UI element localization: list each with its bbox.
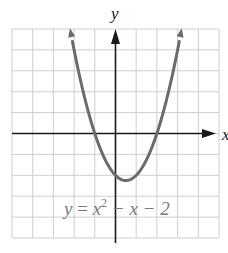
equation-equals: = <box>72 198 92 219</box>
x-axis-label: x <box>221 125 228 144</box>
parabola-curve <box>72 41 179 180</box>
equation-y: y <box>62 198 73 219</box>
x-axis-arrow-icon <box>202 129 216 138</box>
parabola-graph: y x y = x2 − x − 2 <box>0 0 228 253</box>
equation-label: y = x2 − x − 2 <box>62 196 170 219</box>
y-axis-label: y <box>109 4 119 23</box>
equation-rest: − x − 2 <box>107 198 170 219</box>
y-axis-arrow-icon <box>111 29 120 44</box>
